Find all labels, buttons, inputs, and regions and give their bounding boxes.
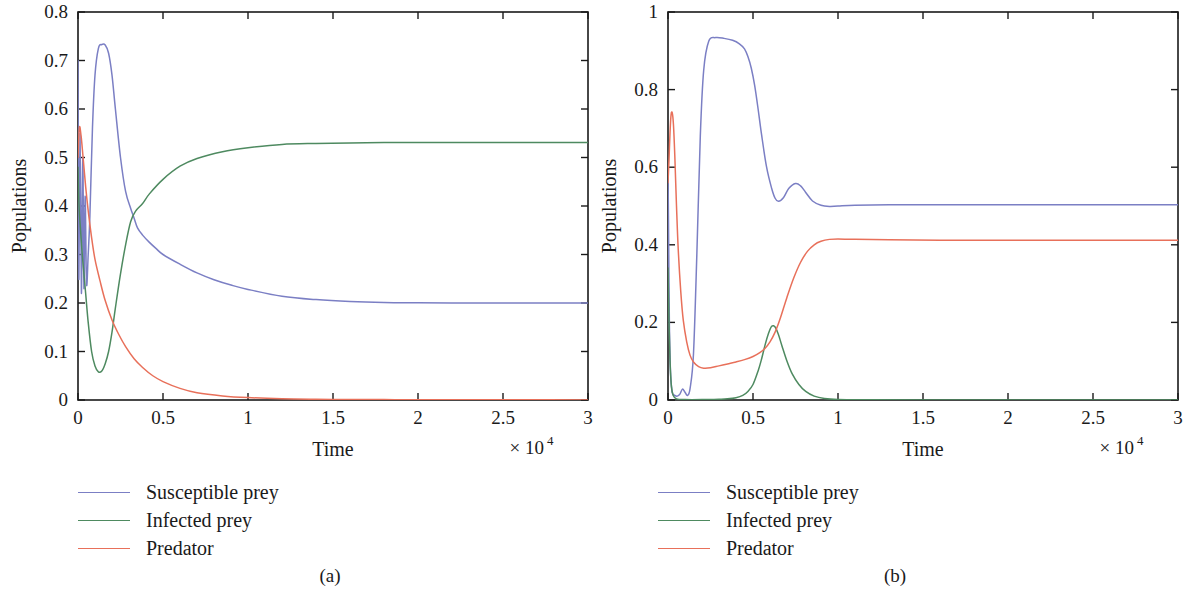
x-tick-label: 3 <box>583 407 593 428</box>
y-tick-label: 0.4 <box>44 195 68 216</box>
svg-text:× 10: × 10 <box>1100 437 1134 458</box>
subcaption-b: (b) <box>855 565 935 587</box>
legend-swatch-infected-prey <box>78 520 130 521</box>
x-tick-label: 1.5 <box>911 407 935 428</box>
x-axis-multiplier: × 104 <box>1100 433 1144 458</box>
y-tick-label: 0.6 <box>634 156 658 177</box>
y-tick-label: 0.7 <box>44 50 68 71</box>
legend-label-infected-prey: Infected prey <box>726 509 832 532</box>
series-line-infected-prey <box>668 268 1178 400</box>
y-tick-label: 0.8 <box>44 1 68 22</box>
x-tick-label: 2 <box>1003 407 1013 428</box>
legend-swatch-predator <box>658 548 710 549</box>
x-tick-label: 0 <box>663 407 673 428</box>
legend-a: Susceptible prey Infected prey Predator <box>78 478 279 562</box>
legend-label-infected-prey: Infected prey <box>146 509 252 532</box>
series-line-infected-prey <box>78 142 588 372</box>
y-tick-label: 0 <box>649 389 659 410</box>
legend-row-susceptible-prey: Susceptible prey <box>78 478 279 506</box>
series-line-predator <box>668 112 1178 368</box>
y-tick-label: 0.3 <box>44 244 68 265</box>
x-axis-label: Time <box>902 438 944 460</box>
legend-row-infected-prey: Infected prey <box>78 506 279 534</box>
x-tick-label: 1 <box>243 407 253 428</box>
legend-b: Susceptible prey Infected prey Predator <box>658 478 859 562</box>
figure-container: 00.511.522.5300.10.20.30.40.50.60.70.8Po… <box>0 0 1191 601</box>
y-tick-label: 0.4 <box>634 234 658 255</box>
y-tick-label: 0.1 <box>44 341 68 362</box>
legend-row-predator: Predator <box>78 534 279 562</box>
legend-swatch-susceptible-prey <box>78 492 130 493</box>
y-tick-label: 0.6 <box>44 98 68 119</box>
legend-label-predator: Predator <box>726 537 794 560</box>
y-tick-label: 1 <box>649 1 659 22</box>
legend-row-infected-prey: Infected prey <box>658 506 859 534</box>
y-tick-label: 0.2 <box>44 292 68 313</box>
series-line-susceptible-prey <box>668 37 1178 396</box>
legend-swatch-predator <box>78 548 130 549</box>
svg-text:4: 4 <box>547 433 554 448</box>
x-tick-label: 1.5 <box>321 407 345 428</box>
legend-label-susceptible-prey: Susceptible prey <box>726 481 859 504</box>
x-tick-label: 0 <box>73 407 83 428</box>
x-axis-multiplier: × 104 <box>510 433 554 458</box>
y-tick-label: 0 <box>59 389 69 410</box>
series-line-susceptible-prey <box>78 44 588 303</box>
svg-text:× 10: × 10 <box>510 437 544 458</box>
x-axis-label: Time <box>312 438 354 460</box>
legend-label-susceptible-prey: Susceptible prey <box>146 481 279 504</box>
x-tick-label: 2.5 <box>1081 407 1105 428</box>
legend-row-susceptible-prey: Susceptible prey <box>658 478 859 506</box>
legend-label-predator: Predator <box>146 537 214 560</box>
legend-swatch-susceptible-prey <box>658 492 710 493</box>
panel-b: 00.511.522.5300.20.40.60.81PopulationsTi… <box>600 0 1191 601</box>
x-tick-label: 2 <box>413 407 423 428</box>
y-tick-label: 0.8 <box>634 79 658 100</box>
svg-text:4: 4 <box>1137 433 1144 448</box>
series-line-predator <box>78 126 588 399</box>
plot-a: 00.511.522.5300.10.20.30.40.50.60.70.8Po… <box>0 0 600 470</box>
panel-a: 00.511.522.5300.10.20.30.40.50.60.70.8Po… <box>0 0 600 601</box>
legend-row-predator: Predator <box>658 534 859 562</box>
y-tick-label: 0.5 <box>44 147 68 168</box>
y-tick-label: 0.2 <box>634 311 658 332</box>
plot-b: 00.511.522.5300.20.40.60.81PopulationsTi… <box>600 0 1191 470</box>
y-axis-label: Populations <box>600 159 621 254</box>
x-tick-label: 0.5 <box>741 407 765 428</box>
legend-swatch-infected-prey <box>658 520 710 521</box>
subcaption-a: (a) <box>290 565 370 587</box>
x-tick-label: 3 <box>1173 407 1183 428</box>
y-axis-label: Populations <box>8 159 31 254</box>
x-tick-label: 0.5 <box>151 407 175 428</box>
x-tick-label: 2.5 <box>491 407 515 428</box>
x-tick-label: 1 <box>833 407 843 428</box>
